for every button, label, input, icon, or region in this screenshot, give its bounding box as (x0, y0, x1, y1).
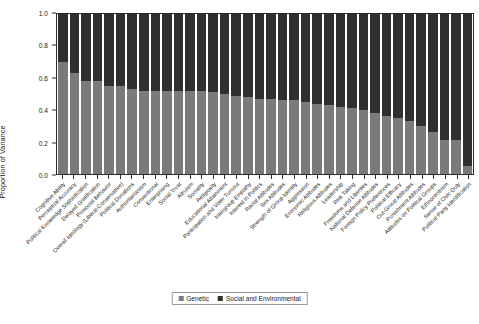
bar-column[interactable] (138, 14, 150, 174)
x-axis-tick-mark (410, 175, 411, 179)
bar-column[interactable] (196, 14, 208, 174)
bar-segment-social-environmental (289, 14, 299, 100)
x-axis-tick-mark (398, 175, 399, 179)
bar-segment-social-environmental (116, 14, 126, 86)
bar-segment-social-environmental (440, 14, 450, 140)
bar-column[interactable] (69, 14, 81, 174)
x-axis-tick-mark (294, 175, 295, 179)
bar-segment-genetic (451, 140, 461, 174)
legend-label-social-environmental: Social and Environmental (226, 295, 301, 302)
bar-column[interactable] (265, 14, 277, 174)
bar-segment-social-environmental (185, 14, 195, 91)
x-axis-tick-mark (306, 175, 307, 179)
bar-column[interactable] (207, 14, 219, 174)
bar-segment-social-environmental (266, 14, 276, 99)
bar-segment-genetic (416, 126, 426, 174)
bar-segment-social-environmental (451, 14, 461, 140)
bar-segment-genetic (208, 92, 218, 174)
bar-column[interactable] (300, 14, 312, 174)
bar-column[interactable] (462, 14, 474, 174)
bar-column[interactable] (150, 14, 162, 174)
x-axis-tick-mark (352, 175, 353, 179)
bar-segment-genetic (324, 105, 334, 174)
bar-segment-social-environmental (278, 14, 288, 100)
bar-segment-social-environmental (151, 14, 161, 91)
bar-column[interactable] (184, 14, 196, 174)
bar-segment-social-environmental (382, 14, 392, 116)
bar-column[interactable] (103, 14, 115, 174)
bar-column[interactable] (335, 14, 347, 174)
bar-column[interactable] (369, 14, 381, 174)
plot-area (56, 13, 474, 175)
bar-segment-social-environmental (463, 14, 473, 166)
bar-segment-social-environmental (255, 14, 265, 99)
x-axis-tick-mark (166, 175, 167, 179)
bar-column[interactable] (80, 14, 92, 174)
bar-segment-social-environmental (93, 14, 103, 81)
x-axis-tick-mark (62, 175, 63, 179)
bar-segment-genetic (197, 91, 207, 174)
chart-figure: Proportion of Variance 0.00.20.40.60.81.… (0, 0, 479, 324)
y-axis-title: Proportion of Variance (0, 125, 7, 198)
bar-column[interactable] (323, 14, 335, 174)
bar-segment-genetic (289, 100, 299, 174)
legend-label-genetic: Genetic (186, 295, 209, 302)
bar-column[interactable] (381, 14, 393, 174)
x-axis-tick-mark (201, 175, 202, 179)
bar-segment-social-environmental (162, 14, 172, 91)
bar-series-container (57, 14, 473, 174)
bar-segment-genetic (405, 121, 415, 174)
bar-column[interactable] (219, 14, 231, 174)
x-axis-labels: Cognitive AbilityPerceptual AccuracyPoli… (56, 180, 474, 285)
bar-column[interactable] (450, 14, 462, 174)
bar-segment-social-environmental (405, 14, 415, 121)
bar-segment-genetic (428, 132, 438, 174)
bar-segment-social-environmental (208, 14, 218, 92)
bar-column[interactable] (173, 14, 185, 174)
bar-column[interactable] (92, 14, 104, 174)
bar-segment-genetic (243, 97, 253, 174)
bar-segment-genetic (220, 94, 230, 174)
bar-segment-social-environmental (428, 14, 438, 132)
bar-column[interactable] (358, 14, 370, 174)
y-axis-tick-label: 0.8 (39, 42, 48, 49)
legend-item-genetic: Genetic (178, 295, 209, 302)
bar-segment-social-environmental (81, 14, 91, 81)
x-axis-tick-mark (317, 175, 318, 179)
x-axis-tick-mark (236, 175, 237, 179)
bar-segment-social-environmental (336, 14, 346, 107)
x-axis-tick-mark (282, 175, 283, 179)
bar-segment-genetic (347, 108, 357, 174)
bar-segment-genetic (231, 96, 241, 174)
bar-column[interactable] (57, 14, 69, 174)
y-axis-tick-label: 0.2 (39, 139, 48, 146)
bar-column[interactable] (311, 14, 323, 174)
bar-column[interactable] (415, 14, 427, 174)
bar-column[interactable] (254, 14, 266, 174)
bar-segment-social-environmental (58, 14, 68, 62)
bar-segment-genetic (312, 104, 322, 174)
bar-column[interactable] (277, 14, 289, 174)
bar-column[interactable] (115, 14, 127, 174)
bar-column[interactable] (439, 14, 451, 174)
bar-column[interactable] (288, 14, 300, 174)
bar-segment-social-environmental (324, 14, 334, 105)
x-axis-tick-mark (433, 175, 434, 179)
legend-swatch-genetic-icon (178, 296, 183, 301)
bar-segment-genetic (162, 91, 172, 174)
bar-column[interactable] (126, 14, 138, 174)
x-axis-tick-mark (190, 175, 191, 179)
bar-segment-social-environmental (347, 14, 357, 108)
bar-column[interactable] (230, 14, 242, 174)
bar-column[interactable] (427, 14, 439, 174)
bar-column[interactable] (404, 14, 416, 174)
bar-column[interactable] (161, 14, 173, 174)
bar-column[interactable] (346, 14, 358, 174)
bar-column[interactable] (242, 14, 254, 174)
bar-segment-genetic (278, 100, 288, 174)
legend-swatch-social-environmental-icon (218, 296, 223, 301)
bar-segment-social-environmental (243, 14, 253, 97)
bar-column[interactable] (392, 14, 404, 174)
y-axis-tick-label: 1.0 (39, 10, 48, 17)
bar-segment-genetic (93, 81, 103, 174)
